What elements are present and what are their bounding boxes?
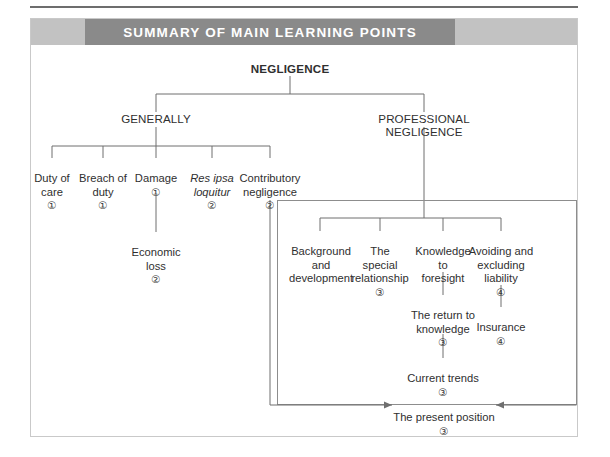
node-insurance: Insurance ④ [470,308,532,361]
node-avoiding-and-excluding-liability-label: Avoiding and excluding liability [469,245,534,284]
node-duty-of-care-label: Duty of care [34,172,69,197]
node-damage-label: Damage [135,172,177,184]
node-the-special-relationship-label: The special relationship [351,245,408,284]
node-economic-loss-label: Economic loss [131,246,180,271]
node-insurance-number: ④ [470,335,532,348]
node-economic-loss-number: ② [122,273,190,286]
node-breach-of-duty-label: Breach of duty [79,172,127,197]
node-current-trends-number: ③ [398,386,488,399]
node-the-present-position: The present position ③ [388,398,500,451]
node-the-present-position-number: ③ [388,425,500,438]
node-economic-loss: Economic loss ② [122,233,190,300]
node-res-ipsa-loquitur-label: Res ipsa loquitur [190,172,234,197]
node-insurance-label: Insurance [476,321,525,333]
node-current-trends-label: Current trends [407,372,479,384]
node-contributory-negligence: Contributory negligence ② [231,159,309,226]
node-professional-negligence: PROFESSIONAL NEGLIGENCE [344,112,504,139]
node-negligence: NEGLIGENCE [240,62,340,75]
node-knowledge-to-foresight-label: Knowledge to foresight [415,245,470,284]
node-the-return-to-knowledge-label: The return to knowledge [411,309,475,334]
page-root: SUMMARY OF MAIN LEARNING POINTS [0,0,610,457]
node-contributory-negligence-label: Contributory negligence [240,172,301,197]
node-damage-number: ① [126,186,186,199]
node-generally: GENERALLY [106,112,206,125]
node-the-present-position-label: The present position [393,411,494,423]
node-contributory-negligence-number: ② [231,199,309,212]
node-damage: Damage ① [126,159,186,212]
